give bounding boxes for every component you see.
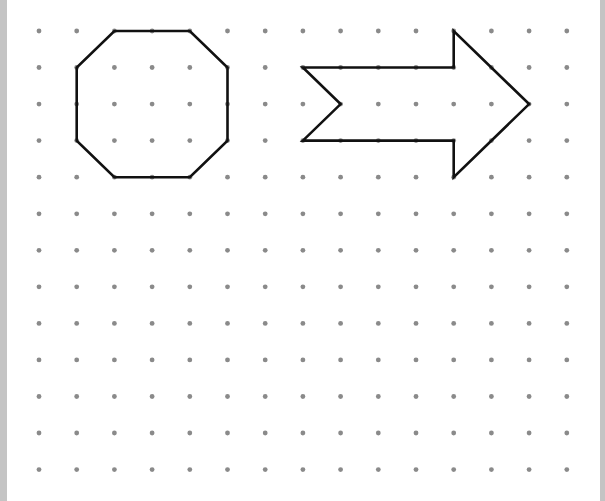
- grid-dot: [301, 321, 306, 326]
- grid-dot: [187, 102, 192, 107]
- grid-dot: [225, 467, 230, 472]
- grid-dot: [527, 29, 532, 34]
- grid-dot: [564, 65, 569, 70]
- grid-dot: [263, 248, 268, 253]
- grid-dot: [527, 65, 532, 70]
- grid-dot: [225, 175, 230, 180]
- grid-dot: [150, 138, 155, 143]
- grid-dot: [301, 211, 306, 216]
- grid-dot: [263, 138, 268, 143]
- grid-dot: [74, 211, 79, 216]
- grid-dot: [187, 284, 192, 289]
- grid-dot: [187, 358, 192, 363]
- grid-dot: [263, 29, 268, 34]
- grid-dot: [376, 321, 381, 326]
- grid-dot: [37, 211, 42, 216]
- grid-dot: [489, 394, 494, 399]
- grid-dot: [451, 102, 456, 107]
- grid-dot: [112, 284, 117, 289]
- grid-dot: [376, 29, 381, 34]
- grid-dot: [263, 321, 268, 326]
- grid-dot: [564, 467, 569, 472]
- dot-grid-drawing: [0, 0, 605, 501]
- grid-dot: [150, 358, 155, 363]
- grid-dot: [338, 175, 343, 180]
- grid-dot: [564, 358, 569, 363]
- grid-dot: [112, 138, 117, 143]
- grid-dot: [37, 65, 42, 70]
- grid-dot: [225, 358, 230, 363]
- grid-dot: [414, 358, 419, 363]
- grid-dot: [74, 29, 79, 34]
- grid-dot: [74, 175, 79, 180]
- grid-dot: [564, 394, 569, 399]
- grid-dot: [225, 211, 230, 216]
- grid-dot: [112, 321, 117, 326]
- grid-dot: [414, 431, 419, 436]
- grid-dot: [112, 467, 117, 472]
- grid-dot: [376, 431, 381, 436]
- grid-dot: [112, 102, 117, 107]
- grid-dot: [112, 358, 117, 363]
- grid-dot: [112, 65, 117, 70]
- grid-dot: [414, 284, 419, 289]
- grid-dot: [74, 248, 79, 253]
- grid-dot: [414, 321, 419, 326]
- grid-dot: [489, 358, 494, 363]
- grid-dot: [489, 29, 494, 34]
- grid-dot: [37, 175, 42, 180]
- grid-dot: [263, 394, 268, 399]
- grid-dot: [564, 284, 569, 289]
- grid-dot: [489, 175, 494, 180]
- grid-dot: [564, 29, 569, 34]
- grid-dot: [187, 321, 192, 326]
- grid-dot: [338, 211, 343, 216]
- grid-dot: [263, 467, 268, 472]
- grid-dot: [564, 211, 569, 216]
- grid-dot: [451, 467, 456, 472]
- grid-dot: [451, 321, 456, 326]
- grid-dot: [451, 248, 456, 253]
- grid-dot: [187, 138, 192, 143]
- grid-dot: [376, 358, 381, 363]
- grid-dot: [263, 65, 268, 70]
- grid-dot: [376, 467, 381, 472]
- grid-dot: [150, 467, 155, 472]
- grid-dot: [376, 248, 381, 253]
- grid-dot: [187, 248, 192, 253]
- grid-dot: [564, 175, 569, 180]
- grid-dot: [489, 431, 494, 436]
- grid-dot: [451, 211, 456, 216]
- grid-dot: [376, 284, 381, 289]
- grid-dot: [527, 138, 532, 143]
- grid-dot: [338, 29, 343, 34]
- grid-dot: [301, 175, 306, 180]
- grid-dot: [301, 102, 306, 107]
- grid-dot: [338, 358, 343, 363]
- grid-dot: [527, 467, 532, 472]
- grid-dot: [414, 102, 419, 107]
- grid-dot: [564, 102, 569, 107]
- grid-dot: [263, 102, 268, 107]
- grid-dot: [263, 284, 268, 289]
- grid-dot: [414, 211, 419, 216]
- grid-dot: [225, 431, 230, 436]
- grid-dot: [527, 248, 532, 253]
- grid-dot: [451, 284, 456, 289]
- grid-dot: [414, 175, 419, 180]
- grid-dot: [451, 358, 456, 363]
- grid-dot: [37, 29, 42, 34]
- grid-dot: [338, 467, 343, 472]
- grid-dot: [112, 394, 117, 399]
- grid-dot: [451, 394, 456, 399]
- grid-dot: [338, 321, 343, 326]
- grid-dot: [376, 394, 381, 399]
- grid-dot: [150, 65, 155, 70]
- grid-dot: [301, 467, 306, 472]
- grid-dot: [150, 431, 155, 436]
- grid-dot: [37, 138, 42, 143]
- grid-dot: [414, 467, 419, 472]
- grid-dot: [376, 102, 381, 107]
- grid-dot: [489, 284, 494, 289]
- grid-dot: [74, 321, 79, 326]
